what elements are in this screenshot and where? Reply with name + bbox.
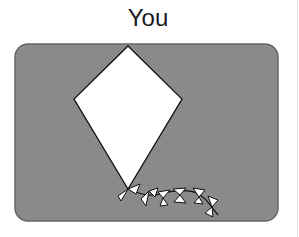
right-divider xyxy=(297,0,298,237)
kite-image xyxy=(0,0,299,237)
